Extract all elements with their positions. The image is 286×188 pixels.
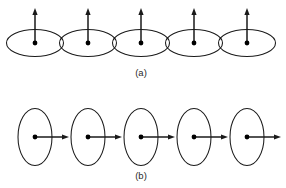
dipole-loop-a-5 [219,8,276,57]
dipole-loop-b-2 [71,109,122,166]
loop-center-dot [33,41,38,46]
loop-center-dot [245,41,250,46]
vector-arrowhead-b-5 [274,134,281,139]
panel-b-label: (b) [135,170,147,181]
loop-center-dot [139,135,144,140]
vector-arrowhead-b-3 [168,134,175,139]
dipole-loop-a-1 [7,8,64,57]
figure-root: (a) (b) [0,0,286,188]
dipole-loop-b-4 [177,109,228,166]
panel-a [7,8,276,57]
panel-a-label: (a) [135,67,147,78]
dipole-loop-a-2 [60,8,117,57]
loop-center-dot [192,41,197,46]
loop-center-dot [192,135,197,140]
vector-arrowhead-a-2 [85,8,90,15]
dipole-diagram-svg: (a) (b) [0,0,286,188]
dipole-loop-a-3 [113,8,170,57]
loop-center-dot [86,41,91,46]
loop-center-dot [245,135,250,140]
panel-b [18,109,281,166]
vector-arrowhead-a-5 [244,8,249,15]
vector-arrowhead-a-4 [191,8,196,15]
dipole-loop-b-1 [18,109,69,166]
vector-arrowhead-b-4 [221,134,228,139]
vector-arrowhead-a-3 [138,8,143,15]
loop-center-dot [86,135,91,140]
dipole-loop-b-5 [230,109,281,166]
loop-center-dot [139,41,144,46]
vector-arrowhead-a-1 [32,8,37,15]
dipole-loop-b-3 [124,109,175,166]
vector-arrowhead-b-2 [115,134,122,139]
loop-center-dot [33,135,38,140]
vector-arrowhead-b-1 [62,134,69,139]
dipole-loop-a-4 [166,8,223,57]
